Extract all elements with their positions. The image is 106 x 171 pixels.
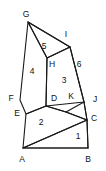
geometry-figure: GIHFEDKJCAB 564321 xyxy=(0,0,106,171)
vertex-label-E: E xyxy=(14,109,20,117)
region-3-label: 3 xyxy=(62,76,67,84)
vertex-label-G: G xyxy=(23,10,30,18)
region-2-label: 2 xyxy=(39,118,44,126)
vertex-label-A: A xyxy=(19,155,25,163)
edge-J-to-C xyxy=(84,102,87,120)
vertex-label-I: I xyxy=(65,30,67,38)
vertex-label-F: F xyxy=(8,94,13,102)
vertex-label-C: C xyxy=(91,114,97,122)
figure-edges-group xyxy=(20,22,88,148)
vertex-label-K: K xyxy=(68,92,74,100)
face-2-base-slab xyxy=(23,106,87,148)
figure-svg xyxy=(0,0,106,171)
vertex-label-H: H xyxy=(49,60,55,68)
vertex-label-J: J xyxy=(93,95,97,103)
region-6-label: 6 xyxy=(77,60,82,68)
face-6-outer-right xyxy=(66,47,87,120)
region-4-label: 4 xyxy=(30,67,35,75)
edge-C-to-B xyxy=(87,120,88,148)
face-5-top-wedge xyxy=(28,22,70,58)
vertex-label-D: D xyxy=(51,94,57,102)
region-5-label: 5 xyxy=(42,42,47,50)
vertex-label-B: B xyxy=(85,155,91,163)
region-1-label: 1 xyxy=(76,132,81,140)
